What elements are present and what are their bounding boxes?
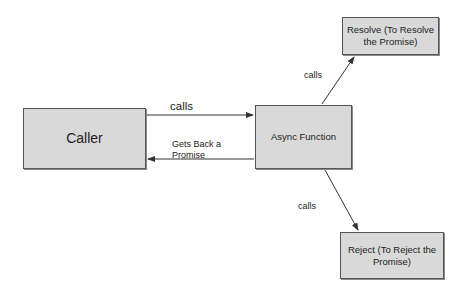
async-flow-diagram: Caller Async Function Resolve (To Resolv… xyxy=(0,0,467,294)
node-resolve: Resolve (To Resolve the Promise) xyxy=(342,17,439,55)
edge-async-to-reject xyxy=(325,170,358,230)
node-reject-label: Reject (To Reject the Promise) xyxy=(341,244,443,268)
edge-label-async-to-resolve: calls xyxy=(304,70,322,81)
node-async-function: Async Function xyxy=(255,105,352,169)
node-caller: Caller xyxy=(23,108,146,169)
node-reject: Reject (To Reject the Promise) xyxy=(340,232,444,279)
edge-label-async-to-caller: Gets Back a Promise xyxy=(172,139,221,161)
edge-label-async-to-reject: calls xyxy=(298,201,316,212)
node-resolve-label: Resolve (To Resolve the Promise) xyxy=(343,24,438,48)
edge-label-caller-to-async: calls xyxy=(170,100,193,114)
node-async-function-label: Async Function xyxy=(271,131,336,143)
edge-async-to-resolve xyxy=(322,57,354,104)
node-caller-label: Caller xyxy=(66,130,103,148)
